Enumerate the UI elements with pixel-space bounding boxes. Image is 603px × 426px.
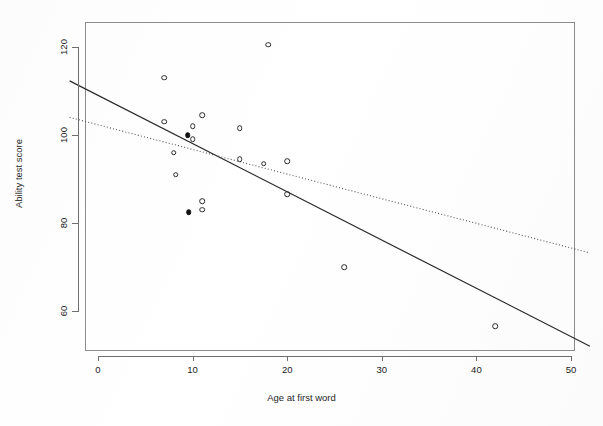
x-tick-label-20: 20 (282, 364, 293, 375)
regression-line-all-data (70, 81, 590, 346)
x-axis-line (98, 356, 572, 357)
y-tick-label-60: 60 (58, 300, 69, 322)
x-tick-label-30: 30 (377, 364, 388, 375)
data-point (265, 42, 271, 48)
regression-lines-layer (85, 22, 575, 351)
y-tick-label-100: 100 (58, 124, 69, 146)
data-point (261, 161, 267, 167)
data-point-highlighted (186, 209, 192, 215)
data-point (199, 198, 205, 204)
y-tick-80 (72, 223, 78, 224)
y-tick-label-120: 120 (58, 36, 69, 58)
data-point (199, 207, 205, 213)
y-axis-line (78, 47, 79, 312)
data-point (284, 159, 290, 165)
data-point (341, 264, 347, 270)
x-axis-title: Age at first word (0, 392, 603, 403)
x-tick-label-10: 10 (187, 364, 198, 375)
x-tick-label-50: 50 (566, 364, 577, 375)
y-tick-label-80: 80 (58, 212, 69, 234)
plot-area (85, 22, 575, 351)
x-tick-label-40: 40 (471, 364, 482, 375)
y-tick-100 (72, 135, 78, 136)
x-tick-10 (193, 356, 194, 361)
data-point (190, 137, 196, 143)
data-point (171, 150, 177, 156)
x-tick-40 (476, 356, 477, 361)
data-point (493, 324, 499, 330)
scatter-plot-figure: 01020304050 6080100120 Age at first word… (0, 0, 603, 426)
data-point (161, 75, 167, 81)
y-tick-120 (72, 47, 78, 48)
regression-line-excluding-influential (70, 117, 590, 253)
data-point (161, 119, 167, 125)
data-point (173, 172, 179, 178)
data-point (237, 126, 243, 132)
x-tick-0 (98, 356, 99, 361)
data-point (190, 123, 196, 129)
y-axis-title: Ability test score (13, 94, 24, 254)
data-point (199, 112, 205, 118)
x-tick-label-0: 0 (95, 364, 100, 375)
y-tick-60 (72, 311, 78, 312)
data-point (284, 192, 290, 198)
x-tick-20 (287, 356, 288, 361)
x-tick-30 (382, 356, 383, 361)
x-tick-50 (571, 356, 572, 361)
data-point (237, 156, 243, 162)
